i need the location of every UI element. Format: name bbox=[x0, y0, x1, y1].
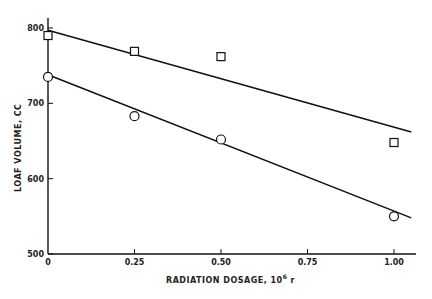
y-tick-label: 700 bbox=[27, 99, 44, 108]
square-marker bbox=[390, 139, 398, 147]
x-tick-label: 0.25 bbox=[125, 258, 145, 267]
x-tick-label: 0 bbox=[45, 258, 51, 267]
y-tick-label: 600 bbox=[27, 175, 44, 184]
square-marker bbox=[217, 53, 225, 61]
y-axis-label: LOAF VOLUME, CC bbox=[14, 104, 23, 193]
square-marker bbox=[131, 47, 139, 55]
axis-labels: RADIATION DOSAGE, 106 r LOAF VOLUME, CC bbox=[14, 104, 295, 286]
y-tick-label: 800 bbox=[27, 24, 44, 33]
x-tick-label: 0.50 bbox=[211, 258, 231, 267]
circle-marker bbox=[217, 135, 226, 144]
circles-fit-line bbox=[48, 75, 411, 218]
circle-marker bbox=[44, 72, 53, 81]
x-tick-label: 1.00 bbox=[384, 258, 404, 267]
x-axis-label: RADIATION DOSAGE, 106 r bbox=[166, 273, 295, 285]
squares-fit-line bbox=[48, 30, 411, 132]
circle-marker bbox=[390, 212, 399, 221]
fit-lines bbox=[48, 30, 411, 218]
y-tick-label: 500 bbox=[27, 250, 44, 259]
square-marker bbox=[44, 32, 52, 40]
circle-marker bbox=[130, 112, 139, 121]
chart: 50060070080000.250.500.751.00 RADIATION … bbox=[0, 0, 432, 299]
x-tick-label: 0.75 bbox=[298, 258, 318, 267]
